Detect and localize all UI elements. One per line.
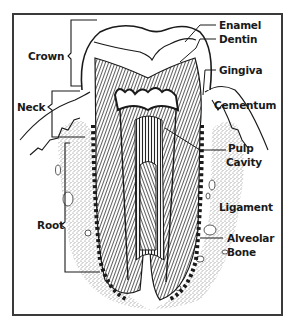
label-pulp: Pulp xyxy=(228,142,254,154)
label-crown: Crown xyxy=(28,50,64,62)
label-gingiva: Gingiva xyxy=(219,64,262,76)
label-cavity: Cavity xyxy=(226,156,262,168)
label-dentin: Dentin xyxy=(219,33,257,45)
label-enamel: Enamel xyxy=(219,19,261,31)
label-neck: Neck xyxy=(17,101,45,113)
label-root: Root xyxy=(37,219,64,231)
pulp-chamber xyxy=(115,88,178,110)
label-cementum: Cementum xyxy=(214,99,276,111)
label-alveolar: Alveolar xyxy=(227,232,274,244)
label-ligament: Ligament xyxy=(219,201,273,213)
label-bone: Bone xyxy=(227,246,256,258)
